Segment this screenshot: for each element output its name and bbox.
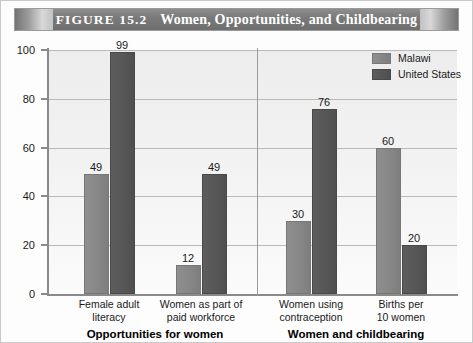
- legend-label-malawi: Malawi: [398, 52, 431, 64]
- y-tick-mark-40: [41, 195, 48, 197]
- category-label-line: 10 women: [346, 311, 456, 324]
- banner-cap-left: [15, 9, 53, 30]
- figure-title: Women, Opportunities, and Childbearing: [160, 12, 417, 28]
- category-label-1: Women as part ofpaid workforce: [146, 298, 256, 324]
- y-tick-mark-100: [41, 49, 48, 51]
- bar-united-states-0[interactable]: 99: [110, 52, 135, 294]
- y-tick-label-40: 40: [5, 190, 35, 202]
- legend-swatch-icon-united-states: [372, 69, 391, 80]
- y-tick-label-0: 0: [5, 288, 35, 300]
- bar-value-label: 49: [90, 161, 102, 173]
- y-tick-label-80: 80: [5, 93, 35, 105]
- y-tick-label-20: 20: [5, 239, 35, 251]
- bar-malawi-3[interactable]: 60: [376, 148, 401, 294]
- category-label-line: Births per: [346, 298, 456, 311]
- gridline-100: [49, 50, 457, 51]
- legend-label-united-states: United States: [398, 68, 461, 80]
- chart-canvas: 4999124930766020 020406080100 Female adu…: [0, 36, 473, 343]
- group-label-1: Women and childbearing: [256, 328, 456, 340]
- category-label-line: Women as part of: [146, 298, 256, 311]
- category-label-line: paid workforce: [146, 311, 256, 324]
- group-label-0: Opportunities for women: [55, 328, 255, 340]
- legend-swatch-icon-malawi: [372, 53, 391, 64]
- bar-united-states-2[interactable]: 76: [312, 109, 337, 294]
- bar-value-label: 20: [408, 232, 420, 244]
- bar-malawi-1[interactable]: 12: [176, 265, 201, 294]
- bar-value-label: 49: [208, 161, 220, 173]
- bar-united-states-1[interactable]: 49: [202, 174, 227, 294]
- bar-malawi-0[interactable]: 49: [84, 174, 109, 294]
- chart-legend: Malawi United States: [372, 52, 462, 84]
- bar-malawi-2[interactable]: 30: [286, 221, 311, 294]
- legend-item-malawi: Malawi: [372, 52, 462, 64]
- banner-cap-right: [420, 9, 458, 30]
- y-tick-mark-20: [41, 244, 48, 246]
- y-tick-mark-80: [41, 98, 48, 100]
- banner-title-text: FIGURE 15.2 Women, Opportunities, and Ch…: [53, 9, 420, 30]
- bar-value-label: 99: [116, 39, 128, 51]
- figure-title-banner: FIGURE 15.2 Women, Opportunities, and Ch…: [14, 8, 459, 31]
- group-divider-line: [257, 48, 258, 296]
- y-tick-label-100: 100: [5, 44, 35, 56]
- legend-item-united-states: United States: [372, 68, 462, 80]
- figure-number: FIGURE 15.2: [56, 12, 148, 28]
- x-axis-line: [47, 294, 458, 296]
- bar-value-label: 12: [182, 252, 194, 264]
- y-tick-mark-0: [41, 293, 48, 295]
- bar-united-states-3[interactable]: 20: [402, 245, 427, 294]
- y-tick-mark-60: [41, 147, 48, 149]
- figure-container: FIGURE 15.2 Women, Opportunities, and Ch…: [0, 0, 473, 343]
- y-tick-label-60: 60: [5, 142, 35, 154]
- bar-value-label: 76: [318, 96, 330, 108]
- bar-value-label: 60: [382, 135, 394, 147]
- category-label-3: Births per10 women: [346, 298, 456, 324]
- plot-area: 4999124930766020: [49, 50, 457, 294]
- y-axis-line: [47, 48, 49, 296]
- bar-value-label: 30: [292, 208, 304, 220]
